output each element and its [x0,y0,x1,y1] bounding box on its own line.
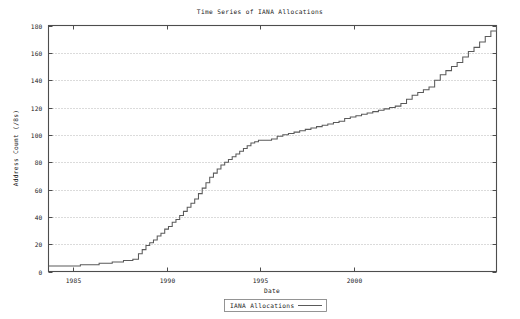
ytick-label-160: 160 [31,50,43,57]
time-series-chart: Time Series of IANA Allocations 02040608… [0,0,520,319]
chart-figure: Time Series of IANA Allocations 02040608… [0,0,520,319]
series-group [49,26,497,267]
ytick-label-140: 140 [31,77,43,84]
ytick-label-180: 180 [31,23,43,30]
series-line-iana-allocations [49,26,497,267]
ytick-label-100: 100 [31,132,43,139]
ytick-label-80: 80 [35,159,43,166]
xtick-label-2000: 2000 [347,277,363,284]
xtick-label-1995: 1995 [253,277,269,284]
ytick-label-60: 60 [35,187,43,194]
plot-frame [49,26,497,272]
xtick-label-1985: 1985 [66,277,82,284]
chart-title: Time Series of IANA Allocations [197,8,323,15]
ytick-label-20: 20 [35,241,43,248]
legend-label-iana-allocations: IANA Allocations [230,302,294,309]
y-axis-label: Address Count (/8s) [12,110,19,186]
xtick-label-1990: 1990 [160,277,176,284]
ytick-label-120: 120 [31,105,43,112]
ytick-label-40: 40 [35,214,43,221]
y-axis-ticks: 020406080100120140160180 [31,23,497,276]
y-gridlines [50,54,496,245]
chart-legend[interactable]: IANA Allocations [225,300,327,312]
x-axis-label: Date [264,287,280,294]
ytick-label-0: 0 [39,269,43,276]
